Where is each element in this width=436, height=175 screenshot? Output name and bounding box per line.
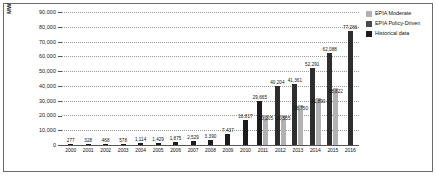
y-axis-tick: 70,000: [39, 39, 62, 45]
bar: 20,205: [263, 115, 268, 145]
bar-group: 62,08838,822: [324, 12, 341, 145]
bar-group: 328: [79, 12, 96, 145]
legend-item[interactable]: EPIA Policy-Driven: [366, 20, 428, 27]
bar-value-label: 41,361: [288, 78, 302, 83]
bar: 31,890: [316, 98, 321, 145]
y-axis-tick-label: 80,000: [39, 24, 56, 30]
bar-group: 41,36126,750: [289, 12, 306, 145]
legend-item[interactable]: Historical data: [366, 30, 428, 37]
bar-stack: 578: [114, 12, 131, 145]
bar-value-label: 16,817: [238, 114, 252, 119]
legend-item[interactable]: EPIA Moderate: [366, 10, 428, 17]
legend-swatch-icon: [366, 11, 372, 17]
y-axis-tick: 20,000: [39, 112, 62, 118]
bar-stack: 468: [97, 12, 114, 145]
chart-container: MW 010,00020,00030,00040,00050,00060,000…: [0, 0, 436, 175]
bar: 62,088: [327, 53, 332, 145]
x-axis: 2000200120022003200420052006200720082009…: [62, 147, 359, 161]
bar-stack: 40,20420,555: [272, 12, 289, 145]
bar-stack: 277: [62, 12, 79, 145]
bar-stack: 1,875: [167, 12, 184, 145]
x-axis-tick-label: 2002: [97, 147, 114, 161]
y-axis-tick: 90,000: [39, 9, 62, 15]
bar-value-label: 7,437: [222, 128, 234, 133]
bar-stack: 328: [79, 12, 96, 145]
x-axis-tick-label: 2010: [237, 147, 254, 161]
bar-group: 3,390: [202, 12, 219, 145]
bar-stack: 2,529: [184, 12, 201, 145]
bar: 16,817: [243, 120, 248, 145]
bar-value-label: 62,088: [323, 47, 337, 52]
bar-columns: 2773284685781,1141,4291,8752,5293,3907,4…: [62, 12, 359, 145]
y-axis-tick: 80,000: [39, 24, 62, 30]
bar-group: 16,817: [237, 12, 254, 145]
bar: 26,750: [298, 105, 303, 145]
bar-group: 468: [97, 12, 114, 145]
bar-group: 40,20420,555: [272, 12, 289, 145]
x-axis-tick-label: 2013: [289, 147, 306, 161]
bar-stack: 16,817: [237, 12, 254, 145]
bar-stack: 1,114: [132, 12, 149, 145]
bar-stack: 62,08838,822: [324, 12, 341, 145]
bar-stack: 29,66520,205: [254, 12, 271, 145]
bar: 1,429: [156, 143, 161, 145]
y-axis-tick-label: 10,000: [39, 127, 56, 133]
bar-group: 1,114: [132, 12, 149, 145]
bar-value-label: 29,665: [253, 95, 267, 100]
x-axis-tick-label: 2012: [272, 147, 289, 161]
bar: 52,291: [310, 68, 315, 145]
bar-stack: 52,29131,890: [307, 12, 324, 145]
x-axis-tick-label: 2011: [254, 147, 271, 161]
y-axis-tick: 60,000: [39, 53, 62, 59]
bar-stack: 7,437: [219, 12, 236, 145]
legend-label: EPIA Moderate: [375, 10, 411, 16]
y-axis-tick: 10,000: [39, 127, 62, 133]
bar-value-label: 277: [67, 138, 75, 143]
bar: 2,529: [191, 141, 196, 145]
x-axis-tick-label: 2016: [342, 147, 359, 161]
legend-swatch-icon: [366, 21, 372, 27]
x-axis-tick-label: 2000: [62, 147, 79, 161]
bar-value-label: 578: [119, 138, 127, 143]
x-axis-tick-label: 2006: [167, 147, 184, 161]
bar: 77,266: [348, 31, 353, 145]
legend-label: EPIA Policy-Driven: [375, 20, 420, 26]
y-axis-tick-label: 0: [53, 142, 56, 148]
bar: 277: [68, 144, 73, 145]
bar-value-label: 3,390: [205, 134, 217, 139]
bar: 7,437: [225, 134, 230, 145]
bar-value-label: 1,875: [170, 136, 182, 141]
x-axis-tick-label: 2008: [202, 147, 219, 161]
bar: 1,114: [138, 143, 143, 145]
y-axis-tick-label: 50,000: [39, 68, 56, 74]
bar-value-label: 52,291: [305, 62, 319, 67]
bar-value-label: 77,266: [343, 25, 357, 30]
bar: 328: [86, 144, 91, 145]
x-axis-tick-label: 2001: [79, 147, 96, 161]
bar-group: 578: [114, 12, 131, 145]
x-axis-baseline: [62, 145, 359, 146]
x-axis-tick-label: 2003: [114, 147, 131, 161]
bar-stack: 3,390: [202, 12, 219, 145]
plot-area: 2773284685781,1141,4291,8752,5293,3907,4…: [62, 12, 359, 145]
bar-group: 77,266: [342, 12, 359, 145]
x-axis-tick-label: 2007: [184, 147, 201, 161]
bar: 1,875: [173, 142, 178, 145]
x-axis-tick-label: 2015: [324, 147, 341, 161]
legend-swatch-icon: [366, 31, 372, 37]
bar: 41,361: [292, 84, 297, 145]
bar: 38,822: [333, 88, 338, 145]
bar: 3,390: [208, 140, 213, 145]
y-axis-tick-label: 70,000: [39, 39, 56, 45]
bar-group: 1,875: [167, 12, 184, 145]
x-axis-tick-label: 2004: [132, 147, 149, 161]
bar-value-label: 40,204: [270, 80, 284, 85]
bar-value-label: 468: [102, 138, 110, 143]
y-axis-tick: 30,000: [39, 98, 62, 104]
bar-group: 277: [62, 12, 79, 145]
bar-group: 1,429: [149, 12, 166, 145]
bar-group: 7,437: [219, 12, 236, 145]
bar-stack: 1,429: [149, 12, 166, 145]
chart-legend: EPIA ModerateEPIA Policy-DrivenHistorica…: [366, 10, 428, 40]
bar-stack: 41,36126,750: [289, 12, 306, 145]
